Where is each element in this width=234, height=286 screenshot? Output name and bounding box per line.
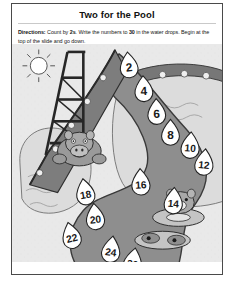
drop-number-label: 10 [184, 142, 196, 154]
drop-number-label: 14 [167, 198, 179, 210]
drop-number-label: 16 [135, 179, 147, 191]
drop-number-label: 6 [153, 107, 160, 120]
directions-segment-1: Count by [46, 29, 70, 35]
drop-number-label: 4 [140, 84, 148, 97]
drop-number-label: 8 [167, 128, 174, 141]
hippo-on-float-lower [135, 231, 190, 249]
worksheet-page: Two for the Pool Directions: Count by 2s… [11, 3, 223, 275]
drop-number-label: 24 [104, 246, 117, 259]
illustration: 24681012141618202224262830 [12, 44, 222, 262]
drop-number-label: 18 [79, 188, 92, 201]
title-divider [18, 23, 216, 24]
drop-number-label: 12 [198, 159, 211, 171]
directions-segment-2: . Write the numbers to [76, 29, 129, 35]
illustration-svg: 24681012141618202224262830 [12, 44, 222, 262]
page-title: Two for the Pool [12, 9, 222, 20]
directions-label: Directions: [18, 29, 46, 35]
drop-number-label: 20 [89, 213, 102, 225]
page-footer-space [12, 262, 222, 274]
